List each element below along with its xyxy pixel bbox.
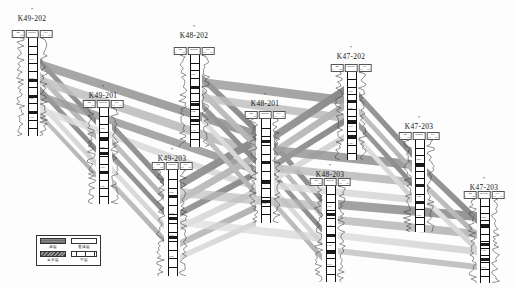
pay-zone-marker — [169, 217, 177, 220]
track-header-group: GR0150DEPTHSAL0.220 — [399, 132, 440, 140]
depth-tick — [191, 124, 199, 125]
legend-swatch-hatch-fill — [40, 251, 66, 257]
depth-label: 1150 — [29, 58, 34, 61]
track-header-box: SAL0.220 — [179, 162, 192, 170]
depth-label: 1200 — [348, 90, 353, 93]
track-header-box: GR0150 — [12, 30, 25, 38]
depth-tick — [262, 128, 270, 129]
depth-label: 1330 — [191, 129, 196, 132]
cross-section-figure: *K49-202GR0150DEPTHSAL0.2201150120012501… — [0, 0, 516, 288]
depth-label: 1250 — [29, 97, 34, 100]
well-log-track: 1250130013501400 — [154, 170, 190, 276]
depth-tick — [327, 194, 335, 195]
depth-tick — [416, 224, 424, 225]
track-header-group: GR0150DEPTHSAL0.220 — [464, 191, 505, 199]
depth-label: 1280 — [191, 110, 196, 113]
depth-tick — [169, 241, 177, 242]
well-name-label: K47-203 — [405, 122, 433, 131]
depth-tick — [262, 180, 270, 181]
depth-label: 1200 — [100, 127, 105, 130]
depth-tick — [348, 153, 356, 154]
depth-tick — [416, 148, 424, 149]
track-header-box: SAL0.220 — [426, 132, 439, 140]
well-log-track: 1200125013001350 — [85, 108, 121, 204]
depth-tick — [481, 206, 489, 207]
legend-entry: 差油层 — [69, 238, 98, 250]
legend-entry: 含水层 — [39, 251, 68, 263]
depth-column — [326, 186, 336, 282]
depth-tick — [348, 116, 356, 117]
track-header-box: SAL0.220 — [337, 178, 350, 186]
depth-label: 1410 — [327, 263, 332, 266]
depth-tick — [348, 79, 356, 80]
depth-label: 1310 — [327, 224, 332, 227]
depth-label: 1240 — [416, 158, 421, 161]
track-header-box: SAL0.220 — [201, 47, 214, 55]
pay-zone-marker — [348, 120, 356, 123]
depth-tick — [29, 71, 37, 72]
well-log-track: 1280133013801430 — [466, 199, 502, 283]
depth-label: 1430 — [481, 266, 486, 269]
depth-label: 1250 — [169, 191, 174, 194]
depth-tick — [348, 145, 356, 146]
pay-zone-marker — [481, 224, 489, 227]
depth-label: 1390 — [416, 214, 421, 217]
depth-tick — [191, 78, 199, 79]
track-header-box: GR0150 — [174, 47, 187, 55]
legend-entry: 油层 — [39, 238, 68, 250]
depth-tick — [262, 214, 270, 215]
depth-tick — [262, 197, 270, 198]
depth-tick — [191, 63, 199, 64]
depth-tick — [416, 155, 424, 156]
well-name-label: K47-202 — [337, 52, 365, 61]
depth-label: 1200 — [29, 77, 34, 80]
depth-tick — [100, 124, 108, 125]
track-header-group: GR0150DEPTHSAL0.220 — [245, 111, 286, 119]
depth-tick — [169, 205, 177, 206]
track-header-box: SAL0.220 — [491, 191, 504, 199]
depth-label: 1280 — [481, 216, 486, 219]
track-header-box: DEPTH — [188, 47, 201, 55]
track-header-group: GR0150DEPTHSAL0.220 — [152, 162, 193, 170]
depth-tick — [327, 258, 335, 259]
track-header-box: GR0150 — [310, 178, 323, 186]
depth-tick — [262, 136, 270, 137]
depth-label: 1320 — [262, 181, 267, 184]
depth-tick — [262, 145, 270, 146]
well-marker-star: * — [171, 148, 174, 152]
depth-tick — [327, 274, 335, 275]
depth-column — [480, 199, 490, 283]
track-header-box: DEPTH — [478, 191, 491, 199]
depth-tick — [29, 120, 37, 121]
depth-tick — [169, 250, 177, 251]
depth-tick — [481, 262, 489, 263]
depth-label: 1300 — [100, 166, 105, 169]
pay-zone-marker — [416, 164, 424, 167]
depth-tick — [348, 87, 356, 88]
depth-label: 1180 — [191, 73, 196, 76]
depth-label: 1270 — [262, 161, 267, 164]
depth-tick — [348, 94, 356, 95]
pay-zone-marker — [327, 234, 335, 237]
depth-column — [28, 38, 38, 136]
pay-zone-marker — [327, 213, 335, 216]
track-header-box: SAL0.220 — [272, 111, 285, 119]
well-marker-star: * — [418, 116, 421, 120]
track-header-box: GR0150 — [331, 64, 344, 72]
pay-zone-marker — [327, 251, 335, 254]
depth-tick — [262, 188, 270, 189]
well-name-label: K49-201 — [89, 91, 117, 100]
depth-tick — [100, 196, 108, 197]
well-marker-star: * — [102, 85, 105, 89]
depth-label: 1400 — [169, 255, 174, 258]
depth-tick — [481, 276, 489, 277]
pay-zone-marker — [416, 201, 424, 204]
depth-tick — [191, 139, 199, 140]
depth-column — [415, 140, 425, 232]
legend-entry: 干层 — [69, 251, 98, 263]
depth-label: 1360 — [327, 244, 332, 247]
depth-tick — [100, 180, 108, 181]
track-header-box: DEPTH — [345, 64, 358, 72]
pay-zone-marker — [191, 103, 199, 106]
pay-zone-marker — [100, 137, 108, 140]
